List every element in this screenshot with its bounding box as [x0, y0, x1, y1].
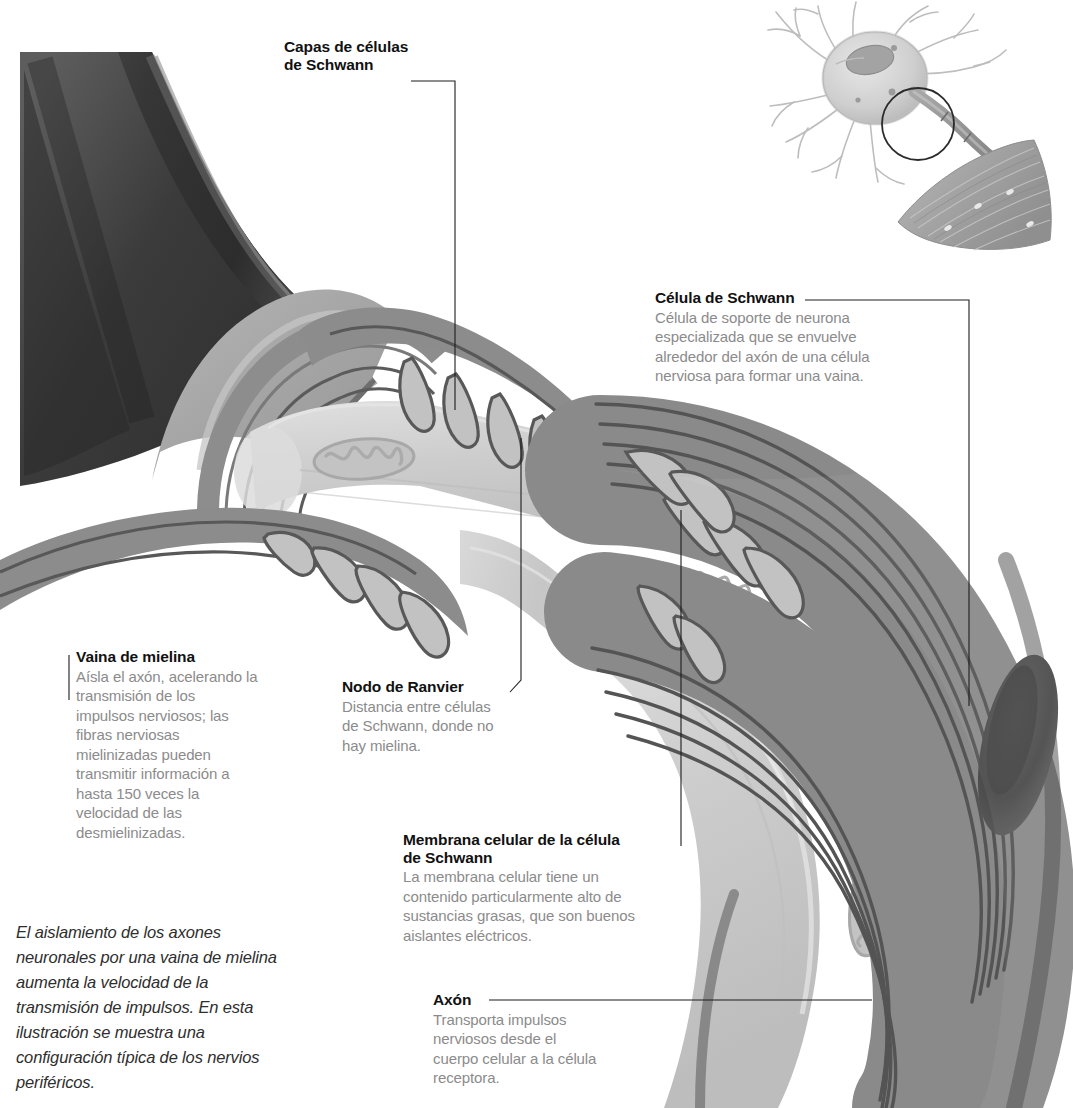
muscle-fiber-target [898, 140, 1051, 250]
callout-title: Célula de Schwann [655, 289, 955, 307]
callout-capas-de-celulas-de-schwann: Capas de células de Schwann [284, 38, 484, 73]
callout-title: Vaina de mielina [76, 648, 306, 666]
cell-body-soma [823, 32, 927, 124]
callout-celula-de-schwann: Célula de Schwann Célula de soporte de n… [655, 289, 955, 386]
figure-caption: El aislamiento de los axones neuronales … [16, 920, 316, 1095]
callout-body: Distancia entre células de Schwann, dond… [342, 697, 562, 756]
callout-body: Aísla el axón, acelerando la transmisión… [76, 667, 306, 843]
callout-axon: Axón Transporta impulsos nerviosos desde… [433, 991, 663, 1088]
callout-title: Capas de células de Schwann [284, 38, 484, 73]
callout-body: Célula de soporte de neurona especializa… [655, 308, 955, 386]
callout-vaina-de-mielina: Vaina de mielina Aísla el axón, aceleran… [76, 648, 306, 842]
callout-title: Axón [433, 991, 663, 1009]
myelin-terminal-loops-lower-left [0, 508, 468, 657]
callout-body: La membrana celular tiene un contenido p… [403, 867, 703, 945]
neuron-overview-inset [742, 0, 1073, 262]
callout-body: Transporta impulsos nerviosos desde el c… [433, 1010, 663, 1088]
callout-membrana-celular: Membrana celular de la célula de Schwann… [403, 831, 703, 945]
callout-title: Membrana celular de la célula de Schwann [403, 831, 703, 866]
callout-title: Nodo de Ranvier [342, 678, 562, 696]
illustration-canvas: Capas de células de Schwann Célula de Sc… [0, 0, 1073, 1108]
callout-nodo-de-ranvier: Nodo de Ranvier Distancia entre células … [342, 678, 562, 755]
